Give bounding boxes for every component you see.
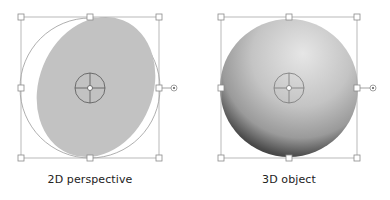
panel-3d-object xyxy=(218,14,376,161)
handle-top-center[interactable] xyxy=(87,14,93,20)
handle-mid-left[interactable] xyxy=(218,85,224,91)
handle-top-left[interactable] xyxy=(218,14,224,20)
diagram-canvas xyxy=(0,0,390,200)
handle-bottom-right[interactable] xyxy=(156,155,162,161)
handle-mid-left[interactable] xyxy=(18,85,24,91)
handle-mid-right[interactable] xyxy=(354,85,360,91)
rotate-handle-icon[interactable] xyxy=(162,85,177,91)
handle-top-center[interactable] xyxy=(286,14,292,20)
handle-mid-right[interactable] xyxy=(156,85,162,91)
flat-ellipse-shape[interactable] xyxy=(16,0,176,175)
handle-bottom-left[interactable] xyxy=(218,155,224,161)
rotate-handle-icon[interactable] xyxy=(360,85,376,91)
handle-bottom-left[interactable] xyxy=(18,155,24,161)
handle-top-left[interactable] xyxy=(18,14,24,20)
crosshair-target-icon[interactable] xyxy=(75,73,105,103)
handle-bottom-center[interactable] xyxy=(87,155,93,161)
handle-top-right[interactable] xyxy=(354,14,360,20)
handle-top-right[interactable] xyxy=(156,14,162,20)
panel-2d-perspective xyxy=(16,0,177,175)
handle-bottom-center[interactable] xyxy=(286,155,292,161)
caption-2d-perspective: 2D perspective xyxy=(10,173,170,186)
caption-3d-object: 3D object xyxy=(209,173,369,186)
handle-bottom-right[interactable] xyxy=(354,155,360,161)
crosshair-target-icon[interactable] xyxy=(274,73,304,103)
